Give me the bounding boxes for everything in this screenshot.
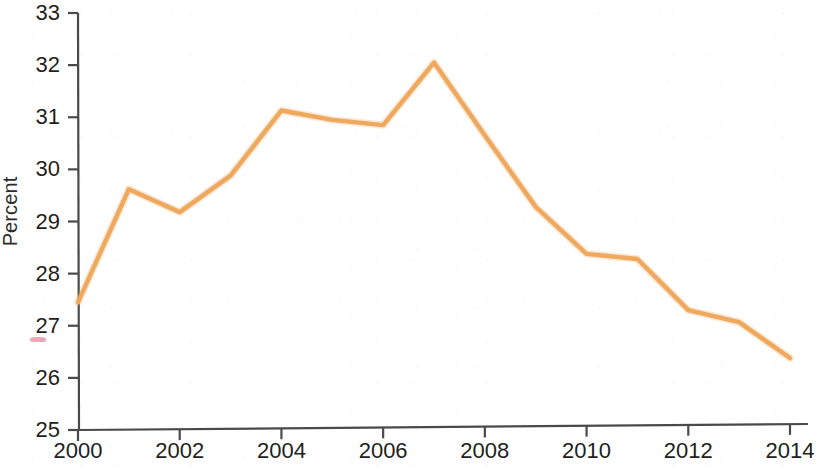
x-axis-tick-label: 2012	[643, 440, 733, 462]
y-axis-tick-label: 26	[16, 367, 60, 389]
x-axis-tick-label: 2008	[440, 440, 530, 462]
x-axis-tick-label: 2006	[338, 440, 428, 462]
x-axis-line	[78, 424, 808, 430]
series-line	[78, 63, 790, 359]
data-series	[78, 63, 790, 359]
y-axis-tick-label: 32	[16, 54, 60, 76]
y-axis-tick-label: 31	[16, 106, 60, 128]
x-axis-tick-label: 2004	[236, 440, 326, 462]
y-axis-tick-label: 27	[16, 315, 60, 337]
x-axis-tick-label: 2014	[745, 440, 819, 462]
x-axis-tick-label: 2000	[33, 440, 123, 462]
x-axis-tick-label: 2010	[542, 440, 632, 462]
y-axis-line	[78, 13, 79, 430]
y-axis-tick-label: 33	[16, 2, 60, 24]
x-axis-tick-label: 2002	[135, 440, 225, 462]
y-axis-tick-label: 28	[16, 263, 60, 285]
axis-ticks	[68, 13, 790, 441]
y-axis-tick-label: 30	[16, 158, 60, 180]
y-axis-tick-label: 29	[16, 211, 60, 233]
